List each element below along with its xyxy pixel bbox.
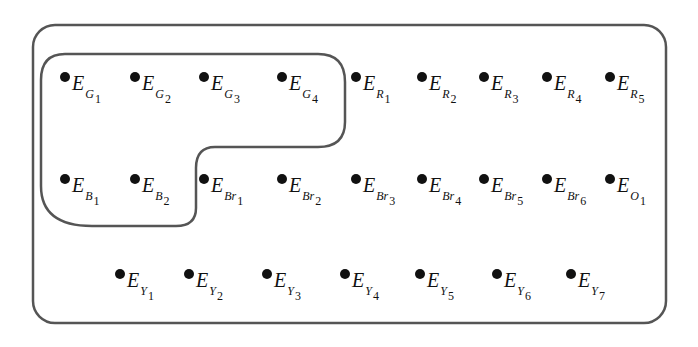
element-index: 3 xyxy=(513,92,519,106)
set-element-b2: EB2 xyxy=(130,171,170,198)
element-index: 3 xyxy=(389,194,395,208)
point-marker-icon xyxy=(199,72,209,82)
element-label: ER3 xyxy=(491,73,519,96)
set-element-o1: EO1 xyxy=(605,171,646,198)
set-element-g2: EG2 xyxy=(130,69,171,96)
set-element-g1: EG1 xyxy=(60,69,101,96)
element-category-subscript: Br6 xyxy=(567,189,586,203)
element-index: 1 xyxy=(640,194,646,208)
element-base-symbol: E xyxy=(504,269,516,291)
element-index: 4 xyxy=(312,92,318,106)
element-label: EBr2 xyxy=(289,175,321,198)
element-category: G xyxy=(155,87,164,101)
element-base-symbol: E xyxy=(554,72,566,94)
element-category-subscript: Y2 xyxy=(209,284,223,298)
element-index: 1 xyxy=(95,92,101,106)
point-marker-icon xyxy=(277,174,287,184)
element-index: 5 xyxy=(639,92,645,106)
element-category: Br xyxy=(567,189,579,203)
element-category: B xyxy=(85,189,92,203)
point-marker-icon xyxy=(351,72,361,82)
element-category: Y xyxy=(365,284,372,298)
element-category: R xyxy=(504,87,511,101)
element-category-subscript: Br4 xyxy=(442,189,461,203)
set-element-r5: ER5 xyxy=(605,69,645,96)
element-base-symbol: E xyxy=(363,174,375,196)
element-category-subscript: Y7 xyxy=(591,284,605,298)
element-category-subscript: R2 xyxy=(442,87,456,101)
set-element-g4: EG4 xyxy=(277,69,318,96)
element-base-symbol: E xyxy=(142,174,154,196)
point-marker-icon xyxy=(199,174,209,184)
element-category: R xyxy=(442,87,449,101)
element-category-subscript: G2 xyxy=(155,87,171,101)
element-base-symbol: E xyxy=(429,174,441,196)
point-marker-icon xyxy=(417,72,427,82)
set-element-y4: EY4 xyxy=(340,266,379,293)
element-index: 2 xyxy=(451,92,457,106)
element-category-subscript: B1 xyxy=(85,189,99,203)
element-category: G xyxy=(302,87,311,101)
element-label: ER2 xyxy=(429,73,457,96)
point-marker-icon xyxy=(262,269,272,279)
set-element-br6: EBr6 xyxy=(542,171,586,198)
element-label: EY4 xyxy=(352,270,379,293)
element-label: EY3 xyxy=(274,270,301,293)
element-category: R xyxy=(630,87,637,101)
point-marker-icon xyxy=(605,174,615,184)
element-index: 2 xyxy=(315,194,321,208)
element-index: 1 xyxy=(385,92,391,106)
point-marker-icon xyxy=(542,174,552,184)
point-marker-icon xyxy=(130,174,140,184)
element-base-symbol: E xyxy=(491,174,503,196)
element-category: O xyxy=(630,189,639,203)
element-base-symbol: E xyxy=(427,269,439,291)
element-base-symbol: E xyxy=(289,174,301,196)
point-marker-icon xyxy=(415,269,425,279)
element-category: Br xyxy=(224,189,236,203)
element-index: 4 xyxy=(455,194,461,208)
element-category-subscript: Y4 xyxy=(365,284,379,298)
point-marker-icon xyxy=(566,269,576,279)
element-category: Y xyxy=(517,284,524,298)
point-marker-icon xyxy=(184,269,194,279)
element-base-symbol: E xyxy=(142,72,154,94)
set-element-y5: EY5 xyxy=(415,266,454,293)
element-index: 2 xyxy=(217,289,223,303)
point-marker-icon xyxy=(277,72,287,82)
element-base-symbol: E xyxy=(289,72,301,94)
element-category: Y xyxy=(440,284,447,298)
element-index: 3 xyxy=(234,92,240,106)
element-label: EG3 xyxy=(211,73,240,96)
set-element-y1: EY1 xyxy=(115,266,154,293)
point-marker-icon xyxy=(479,72,489,82)
element-base-symbol: E xyxy=(211,174,223,196)
element-index: 5 xyxy=(448,289,454,303)
element-category: Y xyxy=(591,284,598,298)
element-category-subscript: R1 xyxy=(376,87,390,101)
element-label: EG1 xyxy=(72,73,101,96)
point-marker-icon xyxy=(542,72,552,82)
point-marker-icon xyxy=(115,269,125,279)
element-category: R xyxy=(376,87,383,101)
set-element-r4: ER4 xyxy=(542,69,582,96)
element-index: 4 xyxy=(373,289,379,303)
element-label: EB2 xyxy=(142,175,170,198)
element-label: EO1 xyxy=(617,175,646,198)
element-category-subscript: G3 xyxy=(224,87,240,101)
set-element-br4: EBr4 xyxy=(417,171,461,198)
element-label: EG4 xyxy=(289,73,318,96)
point-marker-icon xyxy=(417,174,427,184)
point-marker-icon xyxy=(130,72,140,82)
element-category: G xyxy=(224,87,233,101)
element-category-subscript: Br5 xyxy=(504,189,523,203)
element-base-symbol: E xyxy=(72,72,84,94)
element-category: Br xyxy=(376,189,388,203)
point-marker-icon xyxy=(479,174,489,184)
point-marker-icon xyxy=(60,174,70,184)
element-label: EBr4 xyxy=(429,175,461,198)
element-index: 2 xyxy=(165,92,171,106)
point-marker-icon xyxy=(492,269,502,279)
element-category-subscript: R4 xyxy=(567,87,581,101)
set-element-y3: EY3 xyxy=(262,266,301,293)
